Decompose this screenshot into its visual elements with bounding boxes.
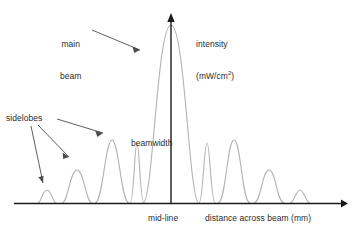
label-intensity-line1: intensity	[196, 39, 234, 50]
label-intensity-units-suffix: )	[231, 71, 234, 81]
arrow-sidelobes-1	[57, 119, 103, 137]
arrow-main-beam-head-icon	[133, 47, 141, 53]
arrow-sidelobes-2-shaft	[38, 125, 69, 157]
y-axis-arrowhead-icon	[167, 13, 174, 22]
y-axis	[167, 13, 174, 204]
lobe-left-sidelobe-1	[130, 143, 144, 203]
lobe-left-sidelobe-4	[38, 190, 56, 203]
beam-profile-chart	[0, 0, 353, 236]
label-sidelobes: sidelobes	[6, 113, 42, 124]
label-midline: mid-line	[148, 213, 178, 224]
lobe-right-sidelobe-4	[290, 190, 310, 203]
annotation-arrows	[31, 30, 140, 183]
label-main-beam-line1: main	[60, 39, 81, 50]
label-distance-axis: distance across beam (mm)	[205, 213, 311, 224]
label-intensity-axis: intensity (mW/cm2)	[196, 18, 234, 102]
lobe-right-sidelobe-2	[218, 140, 250, 203]
lobe-right-sidelobe-1	[199, 143, 215, 203]
beam-profile-figure: main beam sidelobes intensity (mW/cm2) b…	[0, 0, 353, 236]
arrow-main-beam	[92, 30, 140, 53]
arrow-sidelobes-3-head-icon	[38, 176, 43, 183]
arrow-sidelobes-1-shaft	[57, 119, 103, 133]
arrow-sidelobes-3	[31, 126, 44, 183]
lobe-left-sidelobe-3	[62, 170, 92, 203]
arrow-sidelobes-2	[38, 125, 69, 159]
label-main-beam: main beam	[60, 18, 81, 102]
label-main-beam-line2: beam	[60, 71, 81, 82]
lobe-right-sidelobe-3	[254, 170, 284, 203]
label-intensity-units: (mW/cm2)	[196, 71, 234, 82]
label-beamwidth: beamwidth	[131, 138, 173, 149]
arrow-sidelobes-3-shaft	[31, 126, 43, 183]
label-intensity-units-prefix: (mW/cm	[196, 71, 228, 81]
x-axis-arrowhead-icon	[341, 200, 348, 208]
lobe-left-sidelobe-2	[95, 140, 129, 203]
